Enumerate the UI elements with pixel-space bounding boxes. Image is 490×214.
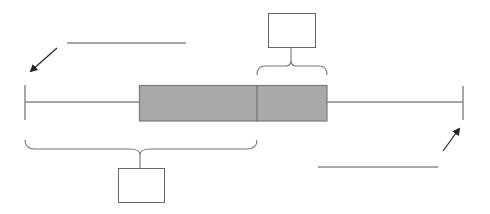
- upper-quartile-label-box[interactable]: [269, 14, 316, 48]
- minimum-arrow-icon: [31, 48, 57, 71]
- diagram-svg: [0, 0, 490, 214]
- interquartile-box: [140, 86, 328, 122]
- upper-quartile-brace: [257, 48, 327, 76]
- lower-half-label-box[interactable]: [119, 169, 165, 203]
- box-plot-diagram: [0, 0, 490, 214]
- maximum-arrow-icon: [443, 129, 459, 151]
- lower-half-brace: [25, 140, 257, 168]
